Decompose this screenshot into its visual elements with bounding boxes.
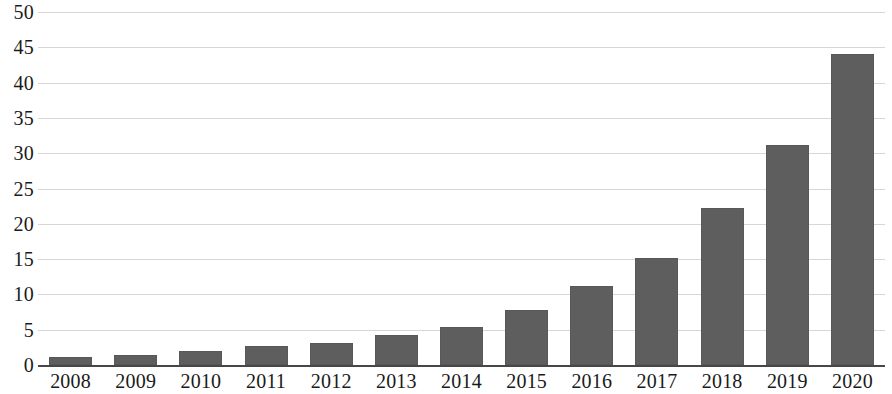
y-axis-tick-label: 30 bbox=[0, 143, 34, 163]
y-axis-tick-label: 10 bbox=[0, 284, 34, 304]
x-axis-tick-label: 2008 bbox=[38, 368, 103, 394]
x-axis-tick-label: 2015 bbox=[494, 368, 559, 394]
bar[interactable] bbox=[570, 286, 613, 365]
bar[interactable] bbox=[635, 258, 678, 365]
x-axis-tick-label: 2013 bbox=[364, 368, 429, 394]
x-axis-tick-label: 2010 bbox=[168, 368, 233, 394]
bar-slot bbox=[299, 12, 364, 365]
x-axis: 2008200920102011201220132014201520162017… bbox=[38, 368, 885, 394]
bar-slot bbox=[494, 12, 559, 365]
y-axis-tick-label: 0 bbox=[0, 355, 34, 375]
y-axis-tick-label: 25 bbox=[0, 179, 34, 199]
axis-baseline bbox=[38, 365, 885, 367]
y-axis-tick-label: 40 bbox=[0, 73, 34, 93]
bar-slot bbox=[820, 12, 885, 365]
x-axis-tick-label: 2020 bbox=[820, 368, 885, 394]
x-axis-tick-label: 2009 bbox=[103, 368, 168, 394]
bar[interactable] bbox=[440, 327, 483, 365]
bar-slot bbox=[364, 12, 429, 365]
x-axis-tick-label: 2019 bbox=[755, 368, 820, 394]
bar-slot bbox=[429, 12, 494, 365]
x-axis-tick-label: 2012 bbox=[299, 368, 364, 394]
y-axis-tick-label: 50 bbox=[0, 2, 34, 22]
bar-slot bbox=[103, 12, 168, 365]
x-axis-tick-label: 2018 bbox=[690, 368, 755, 394]
bar-slot bbox=[168, 12, 233, 365]
bar-chart-figure: 05101520253035404550 2008200920102011201… bbox=[0, 0, 892, 394]
bar[interactable] bbox=[49, 357, 92, 365]
y-axis: 05101520253035404550 bbox=[0, 0, 34, 394]
bar-slot bbox=[690, 12, 755, 365]
bar-slot bbox=[233, 12, 298, 365]
bar-slot bbox=[559, 12, 624, 365]
bar[interactable] bbox=[245, 346, 288, 365]
y-axis-tick-label: 5 bbox=[0, 320, 34, 340]
bar-slot bbox=[624, 12, 689, 365]
x-axis-tick-label: 2011 bbox=[233, 368, 298, 394]
x-axis-tick-label: 2017 bbox=[624, 368, 689, 394]
bar-slot bbox=[38, 12, 103, 365]
x-axis-tick-label: 2016 bbox=[559, 368, 624, 394]
y-axis-tick-label: 35 bbox=[0, 108, 34, 128]
bar[interactable] bbox=[701, 208, 744, 365]
bar[interactable] bbox=[375, 335, 418, 365]
bar[interactable] bbox=[831, 54, 874, 365]
bar[interactable] bbox=[179, 351, 222, 365]
bar[interactable] bbox=[766, 145, 809, 365]
bar[interactable] bbox=[505, 310, 548, 365]
x-axis-tick-label: 2014 bbox=[429, 368, 494, 394]
bars-layer bbox=[38, 12, 885, 365]
y-axis-tick-label: 45 bbox=[0, 37, 34, 57]
bar[interactable] bbox=[310, 343, 353, 365]
y-axis-tick-label: 15 bbox=[0, 249, 34, 269]
plot-area bbox=[38, 12, 885, 365]
y-axis-tick-label: 20 bbox=[0, 214, 34, 234]
bar[interactable] bbox=[114, 355, 157, 365]
bar-slot bbox=[755, 12, 820, 365]
